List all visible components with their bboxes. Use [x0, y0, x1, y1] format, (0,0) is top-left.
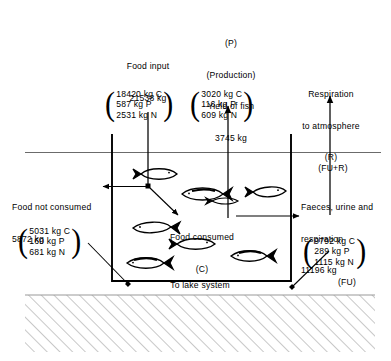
- food-input-composition: ( 18420 kg C587 kg P2531 kg N ): [105, 68, 173, 141]
- brace-open-icon: (: [303, 235, 313, 269]
- respiration-line2: to atmosphere: [288, 121, 374, 132]
- faeces-urine-carbon: 9792 kg C: [314, 236, 355, 246]
- food-input-carbon: 18420 kg C: [116, 89, 162, 99]
- production-carbon: 3020 kg C: [201, 89, 242, 99]
- production-nitrogen: 609 kg N: [201, 110, 237, 120]
- brace-open-icon: (: [190, 88, 200, 122]
- lake-bed: [25, 295, 375, 352]
- faeces-urine-line1: Faeces, urine and: [301, 202, 373, 213]
- diagram-canvas: Food input 21538 kg ( 18420 kg C587 kg P…: [0, 0, 391, 361]
- production-phosphorus: 116 kg P: [201, 99, 236, 109]
- production-code: (P): [186, 38, 276, 49]
- food-consumed-name: Food consumed: [163, 232, 241, 243]
- brace-close-icon: ): [356, 235, 366, 269]
- faeces-urine-composition: ( 9792 kg C289 kg P1115 kg N ): [303, 215, 366, 288]
- to-lake-left-arrow: [88, 243, 128, 284]
- brace-close-icon: ): [243, 88, 253, 122]
- fu-code-label: (FU): [338, 277, 356, 288]
- brace-open-icon: (: [105, 88, 115, 122]
- food-not-consumed-carbon: 5031 kg C: [29, 226, 70, 236]
- fish: [245, 187, 286, 197]
- respiration-line1: Respiration: [288, 89, 374, 100]
- food-not-consumed-phosphorus: 160 kg P: [29, 236, 65, 246]
- food-not-consumed-composition: ( 5031 kg C160 kg P681 kg N ): [18, 205, 81, 278]
- faeces-urine-nitrogen: 1115 kg N: [314, 257, 354, 267]
- brace-open-icon: (: [18, 225, 28, 259]
- food-input-nitrogen: 2531 kg N: [116, 110, 157, 120]
- to-lake-system-label: To lake system: [145, 280, 255, 291]
- faeces-urine-phosphorus: 289 kg P: [314, 246, 350, 256]
- food-consumed-code: (C): [163, 264, 241, 275]
- food-input-phosphorus: 587 kg P: [116, 99, 152, 109]
- production-composition: ( 3020 kg C116 kg P609 kg N ): [190, 68, 253, 141]
- respiration-code: (R): [288, 152, 374, 163]
- brace-close-icon: ): [163, 88, 173, 122]
- fish: [133, 169, 177, 180]
- food-not-consumed-nitrogen: 681 kg N: [29, 247, 65, 257]
- fur-code-label: (FU+R): [296, 163, 370, 174]
- brace-close-icon: ): [71, 225, 81, 259]
